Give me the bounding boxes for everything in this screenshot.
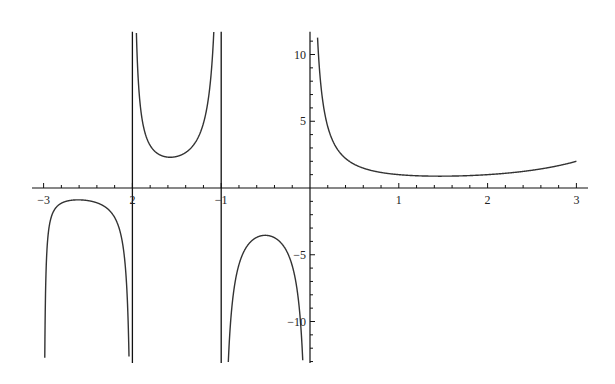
- y-tick-label: −5: [293, 248, 306, 262]
- gamma-curve-segment: [45, 200, 129, 358]
- x-tick-label: −3: [37, 193, 50, 207]
- x-tick-label: 2: [129, 193, 135, 207]
- y-tick-label: 5: [300, 114, 306, 128]
- vertical-asymptotes: [132, 32, 221, 363]
- x-tick-label: 2: [485, 193, 491, 207]
- gamma-function-plot: −32−1123−10−5510: [0, 0, 615, 384]
- y-tick-label: −10: [287, 315, 306, 329]
- x-tick-label: 3: [573, 193, 579, 207]
- gamma-curve-segment: [318, 38, 577, 177]
- gamma-curve-segment: [136, 32, 213, 157]
- y-tick-label: 10: [294, 48, 306, 62]
- axes: [32, 32, 588, 363]
- x-tick-label: −1: [215, 193, 228, 207]
- gamma-curve-segment: [228, 235, 302, 362]
- x-tick-label: 1: [396, 193, 402, 207]
